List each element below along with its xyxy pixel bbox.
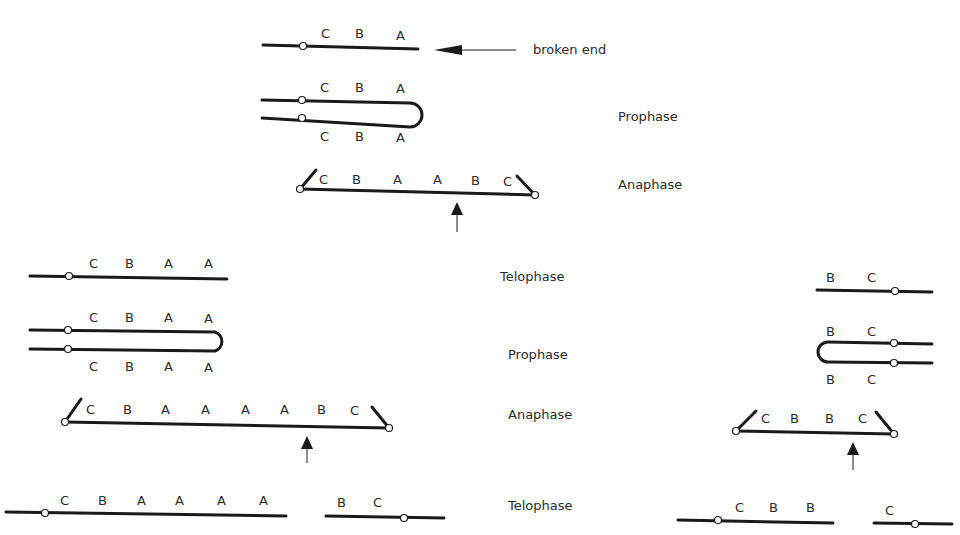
gene-label: B: [125, 359, 134, 374]
gene-label: B: [352, 172, 361, 187]
gene-label: C: [735, 500, 744, 515]
centromere-icon: [891, 431, 898, 438]
gene-label: B: [337, 495, 346, 510]
phase-label: Prophase: [618, 109, 678, 124]
centromere-icon: [299, 115, 306, 122]
phase-label: Telophase: [507, 498, 573, 513]
gene-label: A: [433, 172, 442, 187]
row3-anaphase-bridge: C B A A B C: [297, 170, 539, 232]
gene-label: C: [89, 310, 98, 325]
gene-label: A: [137, 493, 146, 508]
centromere-icon: [892, 288, 899, 295]
gene-label: B: [125, 310, 134, 325]
gene-label: A: [259, 493, 268, 508]
gene-label: A: [396, 130, 405, 145]
gene-label: C: [320, 129, 329, 144]
gene-label: B: [806, 500, 815, 515]
centromere-icon: [300, 43, 307, 50]
gene-label: A: [204, 360, 213, 375]
gene-label: A: [204, 256, 213, 271]
gene-label: B: [790, 411, 799, 426]
gene-label: C: [867, 324, 876, 339]
broken-end-pointer: broken end: [434, 42, 606, 57]
gene-label: C: [89, 359, 98, 374]
gene-label: A: [175, 493, 184, 508]
centromere-icon: [66, 273, 73, 280]
breakage-fusion-bridge-diagram: C B A broken end C B A C B A Prophase C …: [0, 0, 960, 535]
gene-label: B: [826, 324, 835, 339]
gene-label: B: [355, 80, 364, 95]
row2-prophase-loop: C B A C B A: [262, 80, 422, 145]
row7-telophase-right: C B B C: [678, 500, 952, 528]
gene-label: A: [164, 359, 173, 374]
centromere-icon: [733, 428, 740, 435]
gene-label: A: [393, 172, 402, 187]
gene-label: A: [201, 402, 210, 417]
gene-label: B: [471, 173, 480, 188]
centromere-icon: [891, 360, 898, 367]
gene-label: C: [867, 270, 876, 285]
gene-label: C: [320, 80, 329, 95]
row4-telophase-left: C B A A: [30, 256, 227, 280]
centromere-icon: [299, 97, 306, 104]
row4-telophase-right: B C: [817, 270, 932, 295]
centromere-icon: [297, 186, 304, 193]
gene-label: A: [164, 256, 173, 271]
centromere-icon: [65, 327, 72, 334]
gene-label: B: [769, 500, 778, 515]
row6-anaphase-bridge-left: C B A A A A B C: [62, 399, 393, 463]
gene-label: C: [858, 411, 867, 426]
centromere-icon: [42, 510, 49, 517]
centromere-icon: [386, 425, 393, 432]
gene-label: A: [161, 402, 170, 417]
arrow-left-icon: [434, 45, 462, 55]
broken-end-label: broken end: [533, 42, 606, 57]
gene-label: B: [125, 256, 134, 271]
gene-label: B: [826, 372, 835, 387]
phase-label: Telophase: [499, 269, 565, 284]
gene-label: C: [89, 256, 98, 271]
gene-label: A: [204, 311, 213, 326]
centromere-icon: [912, 521, 919, 528]
gene-label: C: [319, 172, 328, 187]
phase-label: Anaphase: [618, 177, 682, 192]
gene-label: A: [217, 493, 226, 508]
gene-label: A: [280, 402, 289, 417]
centromere-icon: [62, 419, 69, 426]
gene-label: A: [241, 402, 250, 417]
gene-label: C: [867, 372, 876, 387]
gene-label: B: [355, 129, 364, 144]
centromere-icon: [532, 192, 539, 199]
row7-telophase-left: C B A A A A B C: [6, 493, 444, 522]
gene-label: B: [825, 411, 834, 426]
gene-label: B: [98, 493, 107, 508]
row5-prophase-loop-right: B C B C: [818, 324, 932, 387]
gene-label: C: [60, 493, 69, 508]
gene-label: C: [885, 503, 894, 518]
gene-label: B: [123, 402, 132, 417]
gene-label: A: [396, 28, 405, 43]
row1-broken-chromosome: C B A: [263, 26, 418, 50]
row5-prophase-loop-left: C B A A C B A A: [30, 310, 222, 375]
gene-label: C: [321, 26, 330, 41]
gene-label: A: [164, 310, 173, 325]
phase-label: Prophase: [508, 347, 568, 362]
gene-label: B: [317, 402, 326, 417]
row6-anaphase-bridge-right: C B B C: [733, 411, 898, 470]
gene-label: C: [86, 402, 95, 417]
gene-label: C: [761, 411, 770, 426]
phase-label: Anaphase: [508, 407, 572, 422]
gene-label: B: [355, 26, 364, 41]
gene-label: C: [503, 174, 512, 189]
gene-label: A: [396, 81, 405, 96]
gene-label: C: [350, 403, 359, 418]
centromere-icon: [401, 515, 408, 522]
gene-label: C: [373, 495, 382, 510]
centromere-icon: [65, 346, 72, 353]
gene-label: B: [826, 270, 835, 285]
centromere-icon: [715, 517, 722, 524]
centromere-icon: [891, 340, 898, 347]
